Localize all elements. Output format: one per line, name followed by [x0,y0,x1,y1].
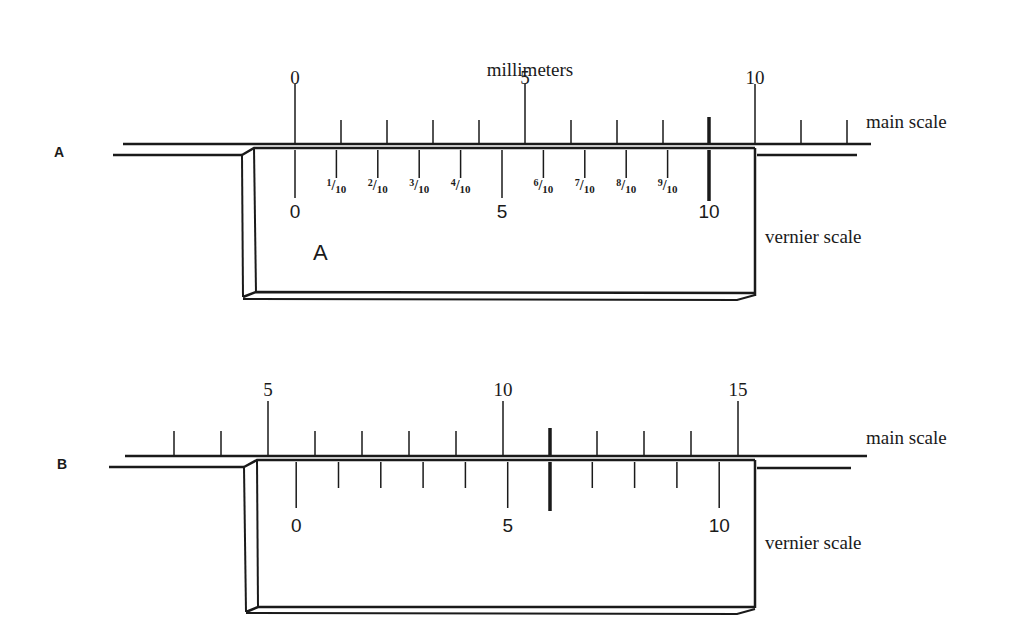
main-scale-tick-label: 5 [263,379,273,400]
main-scale-label-a: main scale [866,111,947,132]
vernier-scale-labels-a: 01/102/103/104/1056/107/108/109/1010 [290,177,720,222]
vernier-slider-a: 01/102/103/104/1056/107/108/109/1010 A [113,148,857,300]
vernier-slider-b: 0510 [109,460,851,614]
vernier-scale-label-a: vernier scale [765,226,862,247]
main-scale-label-b: main scale [866,427,947,448]
main-scale-b: 51015 [125,379,867,456]
main-scale-ticks-b [174,401,738,456]
vernier-scale-labels-b: 0510 [291,515,730,536]
vernier-fraction-label: 9/10 [658,177,678,195]
vernier-scale-tick-label: 10 [709,515,730,536]
units-title: millimeters [487,59,574,80]
panel-label-b: B [57,456,67,472]
vernier-scale-ticks-b [296,462,719,511]
vernier-fraction-label: 2/10 [368,177,388,195]
vernier-fraction-label: 4/10 [451,177,471,195]
vernier-caliper-diagram: millimeters A 0510 main scale 01/102/103… [0,0,1031,639]
panel-label-a: A [54,144,64,160]
slider-label-a: A [313,240,328,265]
vernier-scale-tick-label: 10 [698,201,719,222]
vernier-fraction-label: 1/10 [326,177,346,195]
main-scale-tick-label: 0 [290,67,300,88]
diagram-a: A 0510 main scale 01/102/103/104/1056/10… [54,67,947,300]
vernier-scale-tick-label: 5 [502,515,513,536]
main-scale-tick-label: 10 [494,379,513,400]
main-scale-ticks-a [295,84,847,144]
vernier-fraction-label: 6/10 [533,177,553,195]
main-scale-labels-b: 51015 [263,379,747,400]
vernier-scale-ticks-a [295,150,709,201]
diagram-b: B 51015 main scale 0510 vernier scale [57,379,947,614]
vernier-scale-tick-label: 0 [291,515,302,536]
vernier-fraction-label: 3/10 [409,177,429,195]
main-scale-tick-label: 10 [746,67,765,88]
main-scale-labels-a: 0510 [290,67,764,88]
vernier-scale-tick-label: 0 [290,201,301,222]
vernier-scale-label-b: vernier scale [765,532,862,553]
vernier-scale-tick-label: 5 [497,201,508,222]
vernier-fraction-label: 8/10 [616,177,636,195]
main-scale-tick-label: 15 [729,379,748,400]
vernier-fraction-label: 7/10 [575,177,595,195]
main-scale-tick-label: 5 [520,67,530,88]
